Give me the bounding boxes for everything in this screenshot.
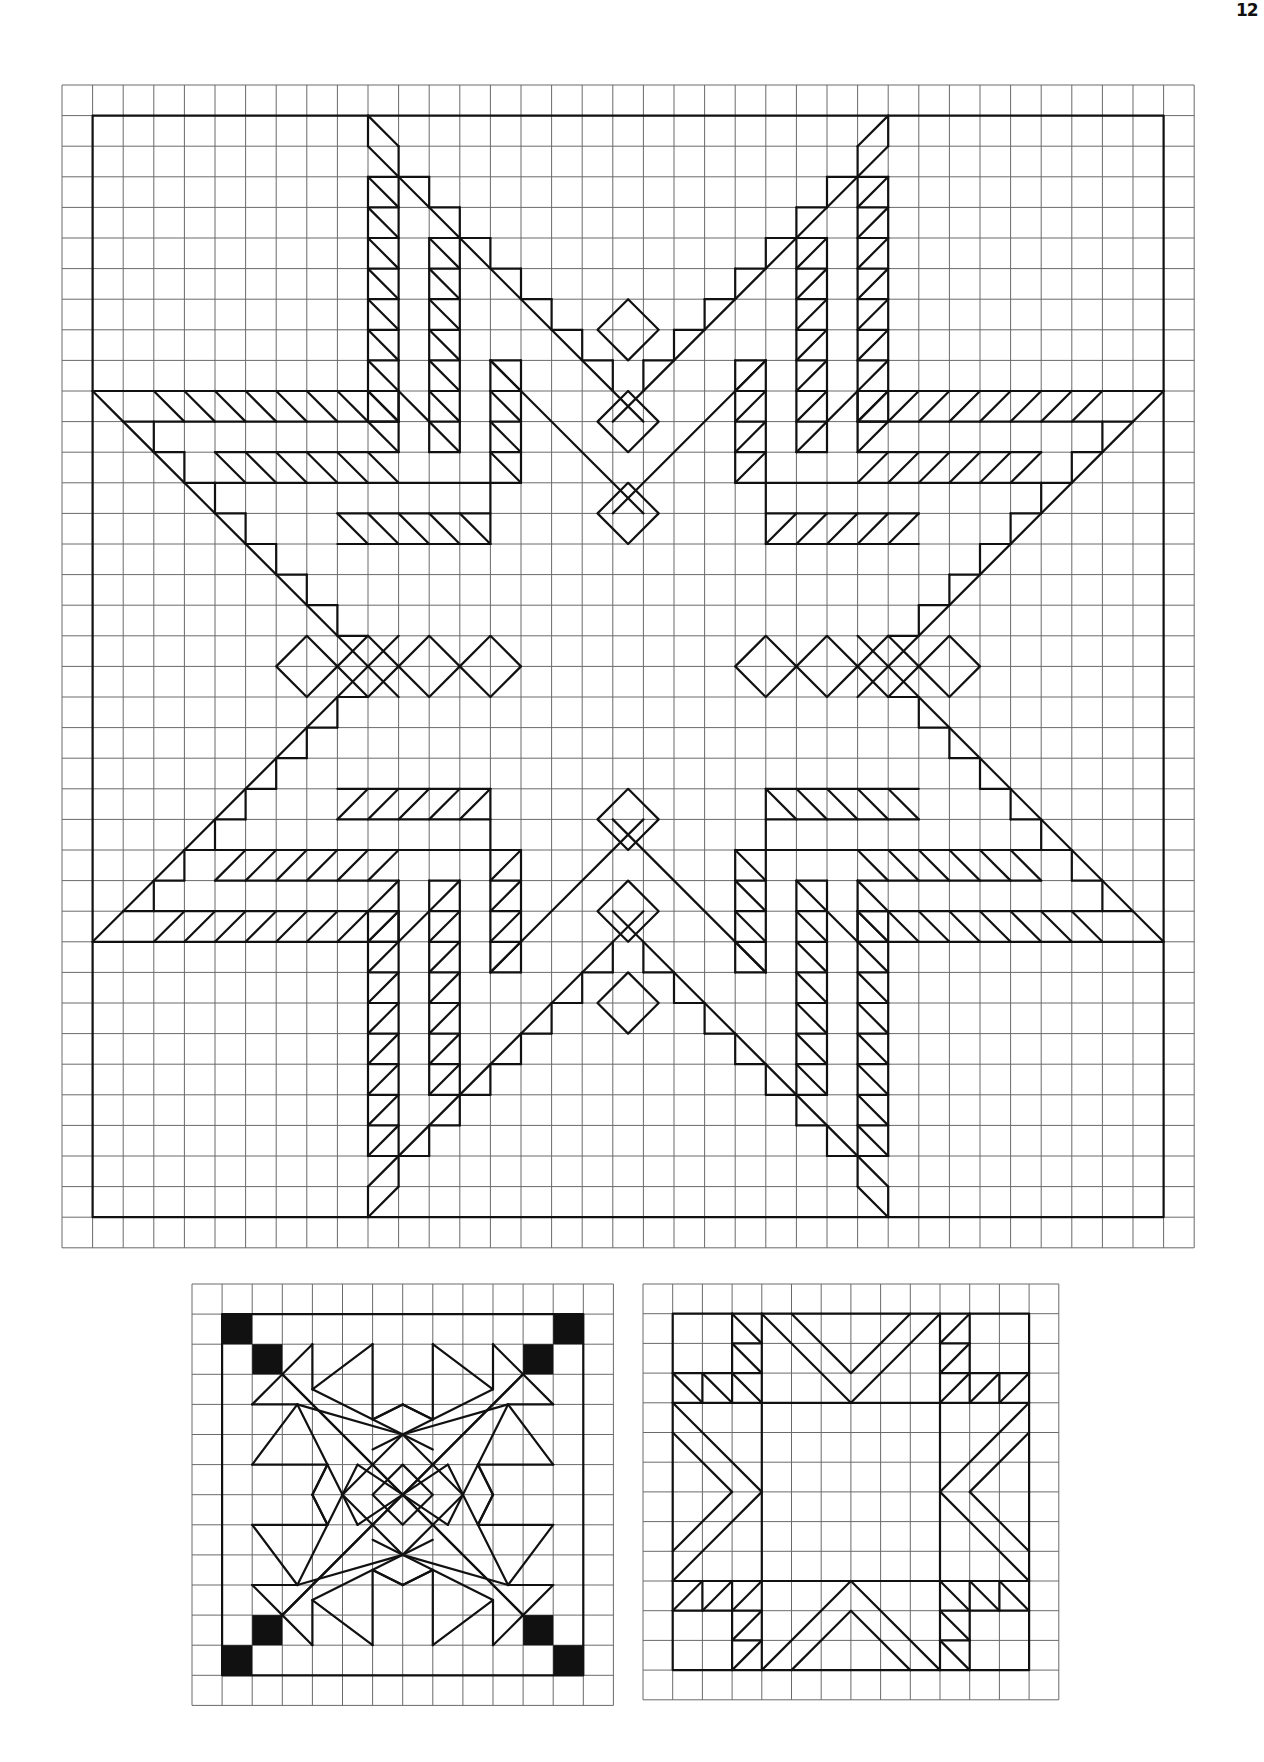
main-graph-grid bbox=[62, 85, 1194, 1248]
pattern-sheet bbox=[0, 0, 1264, 1762]
right-small-graph-grid bbox=[643, 1284, 1059, 1700]
